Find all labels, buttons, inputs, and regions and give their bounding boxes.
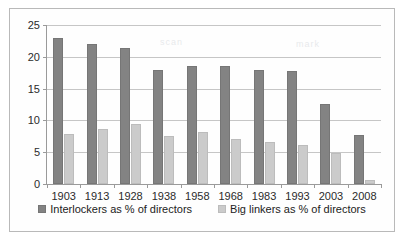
chart-legend: Interlockers as % of directorsBig linker…: [10, 203, 394, 215]
bar: [164, 136, 174, 184]
x-tick-label: 1928: [118, 190, 142, 202]
x-tick-mark: [47, 184, 48, 188]
bar: [231, 139, 241, 184]
bar: [320, 104, 330, 184]
legend-label: Big linkers as % of directors: [230, 203, 366, 215]
x-tick-mark: [247, 184, 248, 188]
bar-group: [287, 25, 308, 184]
x-tick-mark: [381, 184, 382, 188]
y-tick-mark: [43, 120, 47, 121]
bar-group: [120, 25, 141, 184]
bar-group: [187, 25, 208, 184]
chart-frame: scan mark 0510152025 1903191319281938195…: [9, 8, 395, 232]
x-tick-label: 1903: [51, 190, 75, 202]
bar: [254, 70, 264, 184]
y-tick-label: 25: [28, 19, 40, 31]
x-tick-label: 1913: [85, 190, 109, 202]
bar-group: [320, 25, 341, 184]
bar: [187, 66, 197, 184]
x-tick-label: 1968: [218, 190, 242, 202]
legend-entry: Big linkers as % of directors: [218, 203, 366, 215]
x-tick-mark: [348, 184, 349, 188]
x-tick-mark: [181, 184, 182, 188]
bar-group: [254, 25, 275, 184]
x-tick-mark: [80, 184, 81, 188]
bar: [198, 132, 208, 184]
bar: [153, 70, 163, 184]
legend-entry: Interlockers as % of directors: [38, 203, 192, 215]
bar: [265, 142, 275, 184]
bar: [287, 71, 297, 184]
bar: [98, 129, 108, 184]
bar: [331, 153, 341, 184]
bar-group: [354, 25, 375, 184]
bar-group: [153, 25, 174, 184]
bar: [365, 180, 375, 184]
bar: [220, 66, 230, 184]
bar: [354, 135, 364, 184]
y-tick-label: 15: [28, 83, 40, 95]
x-tick-mark: [314, 184, 315, 188]
y-tick-mark: [43, 152, 47, 153]
x-tick-mark: [114, 184, 115, 188]
y-tick-label: 0: [34, 178, 40, 190]
x-tick-mark: [214, 184, 215, 188]
y-tick-mark: [43, 89, 47, 90]
x-tick-mark: [281, 184, 282, 188]
bar: [298, 145, 308, 184]
x-tick-label: 1958: [185, 190, 209, 202]
legend-label: Interlockers as % of directors: [50, 203, 192, 215]
bar: [87, 44, 97, 184]
x-tick-label: 1938: [152, 190, 176, 202]
bar-group: [220, 25, 241, 184]
y-tick-mark: [43, 25, 47, 26]
plot-area: 0510152025 19031913192819381958196819831…: [46, 25, 381, 185]
x-tick-label: 2008: [352, 190, 376, 202]
y-tick-mark: [43, 57, 47, 58]
x-tick-label: 2003: [319, 190, 343, 202]
y-tick-label: 10: [28, 114, 40, 126]
bar: [120, 48, 130, 184]
bar-group: [87, 25, 108, 184]
bar: [64, 134, 74, 184]
x-tick-label: 1983: [252, 190, 276, 202]
legend-swatch-icon: [218, 205, 226, 213]
y-tick-label: 20: [28, 51, 40, 63]
legend-swatch-icon: [38, 205, 46, 213]
y-tick-label: 5: [34, 146, 40, 158]
bar-group: [53, 25, 74, 184]
bar: [131, 124, 141, 184]
x-tick-mark: [147, 184, 148, 188]
bar: [53, 38, 63, 184]
x-tick-label: 1993: [285, 190, 309, 202]
